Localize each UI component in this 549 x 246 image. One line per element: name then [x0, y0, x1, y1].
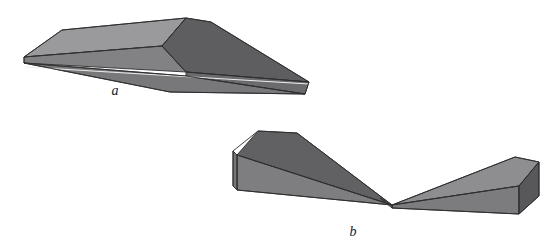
solid-a-label: a	[112, 83, 119, 98]
figure-container: a	[0, 0, 549, 246]
solid-b-face-left-block-end	[233, 151, 237, 190]
solid-b-label: b	[350, 224, 357, 239]
geometric-solids-illustration: a	[0, 0, 549, 246]
